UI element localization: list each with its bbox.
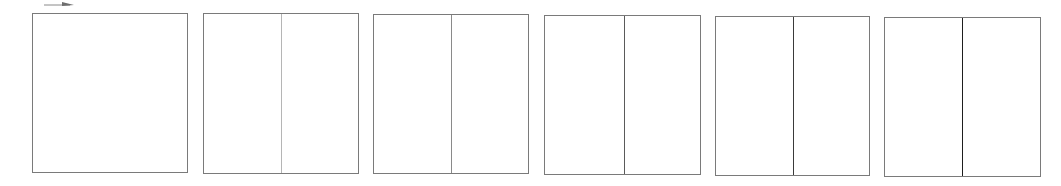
- panel-1: [32, 13, 188, 173]
- panel-divider: [962, 18, 963, 176]
- panel-3: [373, 14, 529, 174]
- panel-4: [544, 15, 701, 175]
- panel-divider: [451, 15, 452, 173]
- panel-2: [203, 13, 359, 174]
- panel-divider: [281, 14, 282, 173]
- panel-divider: [624, 16, 625, 174]
- panel-5: [715, 16, 870, 176]
- panel-6: [884, 17, 1041, 177]
- arrow-right-icon: [44, 1, 76, 7]
- panel-divider: [793, 17, 794, 175]
